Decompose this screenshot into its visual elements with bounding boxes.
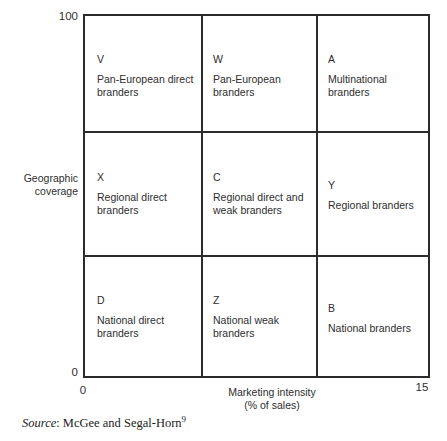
source-superscript: 9 <box>182 414 187 424</box>
cell-code: X <box>97 171 201 183</box>
cell-description: National branders <box>328 322 432 335</box>
matrix-cell-c: C Regional direct and weak branders <box>213 171 317 216</box>
grid-horizontal-divider-2 <box>85 255 428 257</box>
x-axis-max-label: 15 <box>408 381 436 394</box>
matrix-cell-v: V Pan-European direct branders <box>97 53 201 98</box>
matrix-cell-x: X Regional direct branders <box>97 171 201 216</box>
source-separator: : <box>56 416 63 430</box>
matrix-cell-z: Z National weak branders <box>213 294 317 339</box>
source-note: Source: McGee and Segal-Horn9 <box>22 416 186 430</box>
cell-description: Pan-European direct branders <box>97 73 201 98</box>
cell-description: Multinational branders <box>328 73 428 98</box>
grid-vertical-divider-1 <box>201 16 203 376</box>
cell-code: Y <box>328 179 432 191</box>
matrix-cell-d: D National direct branders <box>97 294 201 339</box>
cell-code: C <box>213 171 317 183</box>
grid-horizontal-divider-1 <box>85 131 428 133</box>
cell-code: B <box>328 302 432 314</box>
source-label: Source <box>22 416 56 430</box>
source-text: McGee and Segal-Horn <box>63 416 182 430</box>
cell-description: Regional direct branders <box>97 191 201 216</box>
strategy-matrix-figure: 100 Geographic coverage 0 V Pan-European… <box>0 0 447 441</box>
cell-code: Z <box>213 294 317 306</box>
cell-description: Regional branders <box>328 199 432 212</box>
matrix-grid: V Pan-European direct branders W Pan-Eur… <box>83 14 430 378</box>
cell-code: A <box>328 53 428 65</box>
x-axis-title: Marketing intensity (% of sales) <box>198 386 346 412</box>
matrix-cell-y: Y Regional branders <box>328 179 432 212</box>
cell-code: D <box>97 294 201 306</box>
matrix-cell-a: A Multinational branders <box>328 53 428 98</box>
cell-description: National weak branders <box>213 314 317 339</box>
x-axis-min-label: 0 <box>72 384 94 397</box>
cell-code: W <box>213 53 313 65</box>
cell-description: Pan-European branders <box>213 73 313 98</box>
matrix-cell-b: B National branders <box>328 302 432 335</box>
y-axis-min-label: 0 <box>52 366 78 379</box>
cell-description: National direct branders <box>97 314 201 339</box>
cell-description: Regional direct and weak branders <box>213 191 317 216</box>
y-axis-title: Geographic coverage <box>6 172 78 197</box>
y-axis-max-label: 100 <box>52 10 78 23</box>
matrix-cell-w: W Pan-European branders <box>213 53 313 98</box>
cell-code: V <box>97 53 201 65</box>
